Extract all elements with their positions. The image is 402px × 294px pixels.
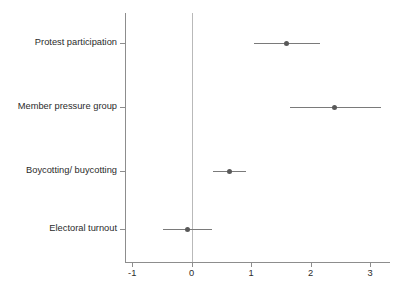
x-axis-label-1: 0 [180, 269, 204, 278]
point-estimate-2 [227, 169, 232, 174]
zero-reference-line [192, 13, 193, 262]
point-estimate-1 [332, 105, 337, 110]
x-axis-label-4: 3 [358, 269, 382, 278]
x-axis-label-2: 1 [239, 269, 263, 278]
y-axis-label-3: Electoral turnout [0, 224, 117, 233]
y-axis-tick [120, 107, 125, 108]
y-axis-tick [120, 43, 125, 44]
x-axis-tick [192, 263, 193, 267]
y-axis-label-1: Member pressure group [0, 102, 117, 111]
x-axis-label-3: 2 [299, 269, 323, 278]
y-axis-line [125, 13, 126, 263]
y-axis-tick [120, 171, 125, 172]
point-estimate-0 [284, 41, 289, 46]
point-estimate-3 [185, 227, 190, 232]
y-axis-tick [120, 229, 125, 230]
x-axis-tick [311, 263, 312, 267]
y-axis-label-2: Boycotting/ buycotting [0, 166, 117, 175]
x-axis-tick [370, 263, 371, 267]
x-axis-tick [132, 263, 133, 267]
x-axis-line [125, 262, 390, 263]
x-axis-label-0: -1 [120, 269, 144, 278]
coefficient-plot: Protest participationMember pressure gro… [0, 0, 402, 294]
y-axis-label-0: Protest participation [0, 38, 117, 47]
x-axis-tick [251, 263, 252, 267]
